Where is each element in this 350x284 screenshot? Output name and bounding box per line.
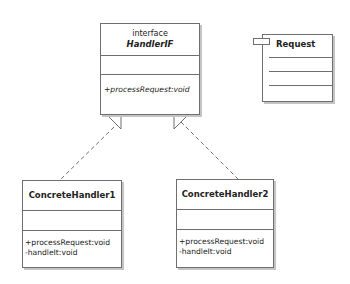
operation: +processRequest:void [104,85,199,95]
operations-compartment: +processRequest:void [101,74,199,114]
class-header: interface HandlerIF [101,24,199,55]
divider-line [269,85,332,86]
attributes-compartment [101,55,199,74]
operation: +processRequest:void [25,238,121,248]
component-tab-icon [253,38,270,45]
hollow-triangle-arrowhead-icon [174,115,188,129]
operations-compartment: +processRequest:void -handleIt:void [23,230,121,258]
realization-arrow-concrete-handler-2 [174,115,238,179]
stereotype-label: interface [132,29,168,39]
attributes-compartment [23,210,121,230]
class-name: HandlerIF [127,39,174,50]
divider-line [269,71,332,72]
realization-arrow-concrete-handler-1 [60,115,121,180]
hollow-triangle-arrowhead-icon [107,115,121,129]
operation: -handleIt:void [25,248,121,258]
class-concrete-handler-1[interactable]: ConcreteHandler1 +processRequest:void -h… [22,180,122,268]
class-header: ConcreteHandler1 [23,181,121,210]
class-handler-if[interactable]: interface HandlerIF +processRequest:void [100,23,200,115]
class-name: ConcreteHandler1 [29,190,116,201]
operation: +processRequest:void [179,237,273,247]
dashed-line [181,122,238,179]
class-name: Request [276,39,315,49]
operation: -handleIt:void [179,247,273,257]
divider-line [269,57,332,58]
attributes-compartment [177,209,273,229]
class-concrete-handler-2[interactable]: ConcreteHandler2 +processRequest:void -h… [176,179,274,268]
class-request[interactable]: Request [262,34,333,102]
dashed-line [60,127,114,180]
operations-compartment: +processRequest:void -handleIt:void [177,229,273,257]
class-name: ConcreteHandler2 [182,189,269,200]
class-header: ConcreteHandler2 [177,180,273,209]
